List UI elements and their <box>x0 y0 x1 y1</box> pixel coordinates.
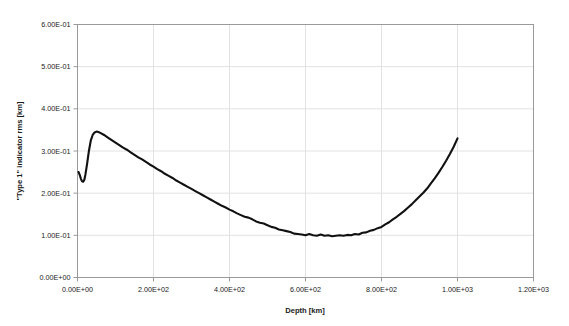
x-tick-label: 4.00E+02 <box>214 285 245 294</box>
x-axis-title: Depth [km] <box>285 306 325 315</box>
y-tick-label: 0.00E+00 <box>40 273 71 282</box>
x-tick-label: 1.00E+03 <box>442 285 473 294</box>
y-tick-label: 3.00E-01 <box>41 147 70 156</box>
y-axis-title: "Type 1" indicator rms [km] <box>15 101 24 201</box>
y-tick-label: 1.00E-01 <box>41 231 70 240</box>
x-tick-label: 0.00E+00 <box>62 285 93 294</box>
y-tick-label: 4.00E-01 <box>41 104 70 113</box>
y-tick-label: 6.00E-01 <box>41 20 70 29</box>
chart-figure: 0.00E+001.00E-012.00E-013.00E-014.00E-01… <box>0 0 569 326</box>
y-tick-label: 2.00E-01 <box>41 189 70 198</box>
x-tick-label: 1.20E+03 <box>518 285 549 294</box>
x-tick-label: 2.00E+02 <box>138 285 169 294</box>
y-tick-label: 5.00E-01 <box>41 62 70 71</box>
x-tick-label: 6.00E+02 <box>290 285 321 294</box>
x-tick-label: 8.00E+02 <box>366 285 397 294</box>
chart-canvas: 0.00E+001.00E-012.00E-013.00E-014.00E-01… <box>0 0 569 326</box>
